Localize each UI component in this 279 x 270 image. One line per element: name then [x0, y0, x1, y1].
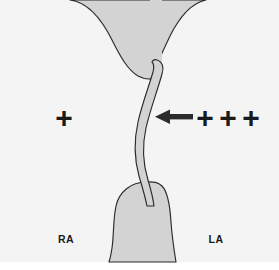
- ra-pressure-plus: +: [55, 101, 73, 134]
- left-atrium-label: LA: [209, 233, 224, 245]
- right-atrium-label: RA: [58, 233, 74, 245]
- figure-root: + + + + RA LA: [0, 0, 279, 270]
- la-pressure-plus-1: +: [196, 101, 214, 134]
- la-pressure-plus-2: +: [219, 101, 237, 134]
- atrial-septum-diagram: + + + + RA LA: [0, 0, 279, 270]
- la-pressure-plus-3: +: [242, 101, 260, 134]
